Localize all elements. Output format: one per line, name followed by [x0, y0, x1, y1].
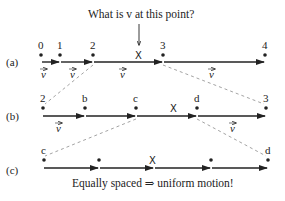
point-label: d: [265, 144, 271, 156]
point-d: [266, 158, 270, 162]
point-d: [195, 106, 199, 110]
point-c: [134, 106, 138, 110]
point-label: 0: [38, 39, 44, 51]
point-4: [263, 53, 267, 57]
point-c: [42, 158, 46, 162]
x-marker: X: [170, 103, 177, 114]
row-a: (a) 0 1 2 3 4 X v v v v: [6, 39, 268, 80]
point-label: c: [133, 92, 138, 104]
svg-text:v: v: [41, 68, 46, 80]
point-3: [264, 106, 268, 110]
caption: Equally spaced ⇒ uniform motion!: [72, 177, 234, 190]
point: [209, 158, 213, 162]
point-3: [161, 53, 165, 57]
point-label: d: [194, 92, 200, 104]
point-label: 2: [90, 39, 96, 51]
point-label: 4: [262, 39, 268, 51]
row-c: (c) c d X Equally spaced ⇒ uniform motio…: [6, 144, 271, 190]
svg-text:v: v: [209, 68, 214, 80]
x-marker: X: [135, 50, 142, 61]
row-a-label: (a): [6, 56, 19, 69]
velocity-labels: v v v v: [40, 68, 215, 80]
point-label: 2: [40, 92, 46, 104]
point-label: 3: [263, 92, 269, 104]
row-b-label: (b): [6, 110, 19, 123]
point-2: [91, 53, 95, 57]
point-label: 1: [57, 39, 63, 51]
point-label: 3: [160, 39, 166, 51]
point-1: [58, 53, 62, 57]
svg-text:v: v: [70, 68, 75, 80]
motion-diagram: What is v at this point? (a) 0 1 2 3 4 X…: [0, 0, 285, 201]
question-title: What is v at this point?: [88, 8, 194, 21]
point-0: [39, 53, 43, 57]
x-marker: X: [149, 155, 156, 166]
point-label: b: [82, 92, 88, 104]
svg-text:v: v: [56, 122, 61, 134]
zoom-guide-lines: [45, 65, 266, 156]
point-label: c: [41, 144, 46, 156]
row-b: (b) 2 b c d 3 X v v: [6, 92, 269, 134]
svg-text:v: v: [230, 122, 235, 134]
point: [97, 158, 101, 162]
row-c-label: (c): [6, 164, 19, 177]
svg-text:v: v: [120, 68, 125, 80]
point-2: [41, 106, 45, 110]
point-b: [83, 106, 87, 110]
velocity-labels: v v: [55, 122, 236, 134]
